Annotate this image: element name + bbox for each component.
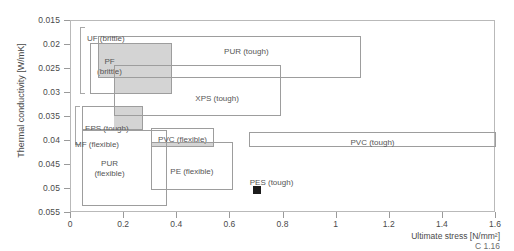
y-tick-label: 0.02 — [14, 40, 60, 49]
x-tick-label: 1 — [321, 220, 351, 229]
x-tick-mark — [495, 212, 496, 218]
y-tick-label: 0.045 — [14, 160, 60, 169]
x-tick-label: 1.4 — [427, 220, 457, 229]
data-box-label: PUR (tough) — [206, 47, 286, 57]
y-tick-label: 0.015 — [14, 16, 60, 25]
y-tick-label: 0.05 — [14, 184, 60, 193]
annotation-label: MF (flexible) — [75, 140, 119, 149]
data-point-label: PES (tough) — [232, 178, 312, 188]
x-tick-label: 1.2 — [374, 220, 404, 229]
data-box-label: PVC (tough) — [332, 138, 412, 148]
x-tick-mark — [442, 212, 443, 218]
x-tick-label: 0.6 — [214, 220, 244, 229]
y-tick-label: 0.04 — [14, 136, 60, 145]
y-tick-label: 0.055 — [14, 208, 60, 217]
x-tick-mark — [283, 212, 284, 218]
x-tick-mark — [229, 212, 230, 218]
x-tick-label: 0.2 — [108, 220, 138, 229]
y-tick-label: 0.025 — [14, 64, 60, 73]
data-box-label: PUR (flexible) — [70, 159, 150, 178]
x-tick-mark — [176, 212, 177, 218]
plot-area: PF (brittle)PUR (tough)XPS (tough)EPS (t… — [70, 20, 495, 212]
chart-canvas: Thermal conductivity [W/mK] 0.0150.020.0… — [0, 0, 514, 251]
x-tick-mark — [70, 212, 71, 218]
x-tick-label: 1.6 — [480, 220, 510, 229]
y-tick-label: 0.035 — [14, 112, 60, 121]
annotation-bracket — [80, 27, 85, 94]
x-tick-label: 0 — [55, 220, 85, 229]
x-axis-title: Ultimate stress [N/mm²] — [340, 232, 500, 241]
data-box-label: PE (flexible) — [152, 167, 232, 177]
x-tick-mark — [123, 212, 124, 218]
y-tick-label: 0.03 — [14, 88, 60, 97]
x-tick-mark — [336, 212, 337, 218]
annotation-label: UF (brittle) — [87, 34, 125, 43]
x-tick-label: 0.4 — [161, 220, 191, 229]
x-tick-mark — [389, 212, 390, 218]
x-tick-label: 0.8 — [268, 220, 298, 229]
data-box-label: XPS (tough) — [177, 94, 257, 104]
figure-reference: C 1.16 — [400, 242, 500, 251]
